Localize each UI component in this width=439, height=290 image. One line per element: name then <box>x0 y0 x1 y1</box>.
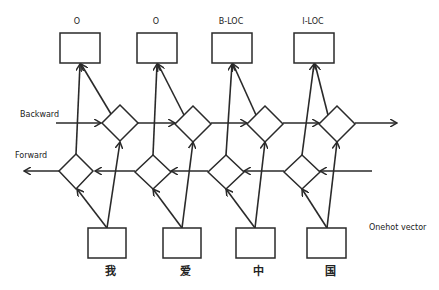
forward-to-output-edge <box>153 64 157 155</box>
input-char-label: 中 <box>253 264 264 278</box>
forward-lstm-cell <box>208 155 244 189</box>
forward-label: Forward <box>15 151 47 160</box>
onehot-vector-label: Onehot vector <box>369 223 427 232</box>
forward-to-output-edge <box>226 64 232 155</box>
output-box <box>212 33 252 63</box>
output-tag-label: O <box>74 17 80 26</box>
backward-to-output-edge <box>81 64 111 114</box>
input-to-backward-edge <box>107 142 120 228</box>
input-to-forward-edge <box>226 189 255 228</box>
input-box <box>236 228 275 258</box>
input-to-backward-edge <box>182 142 193 228</box>
bilstm-diagram: O O B-LOC I-LOC Backward Forward Onehot … <box>0 0 439 290</box>
backward-lstm-cell <box>102 105 138 141</box>
forward-to-output-edge <box>302 64 314 155</box>
input-to-forward-edge <box>77 189 107 228</box>
forward-lstm-cell <box>59 154 93 189</box>
forward-lstm-cell <box>284 155 320 189</box>
output-tag-label: I-LOC <box>302 17 324 26</box>
backward-to-output-edge <box>233 64 256 115</box>
forward-lstm-cell <box>135 155 171 189</box>
forward-to-output-edge <box>76 64 80 154</box>
input-box <box>163 228 201 258</box>
input-to-backward-edge <box>255 142 265 228</box>
input-to-forward-edge <box>302 189 327 228</box>
input-char-label: 爱 <box>180 265 191 278</box>
input-char-label: 我 <box>105 264 116 278</box>
backward-to-output-edge <box>315 64 328 115</box>
input-box <box>88 228 126 258</box>
input-to-backward-edge <box>327 142 337 228</box>
output-box <box>60 33 100 63</box>
input-char-label: 国 <box>325 265 336 278</box>
backward-lstm-cell <box>175 106 211 142</box>
output-tag-label: B-LOC <box>219 17 244 26</box>
backward-label: Backward <box>20 110 59 119</box>
input-to-forward-edge <box>153 189 182 228</box>
backward-to-output-edge <box>158 64 184 115</box>
output-box <box>137 33 177 63</box>
output-box <box>294 33 334 63</box>
output-tag-label: O <box>153 17 159 26</box>
backward-lstm-cell <box>319 106 355 142</box>
input-box <box>307 228 346 258</box>
backward-lstm-cell <box>247 106 283 142</box>
